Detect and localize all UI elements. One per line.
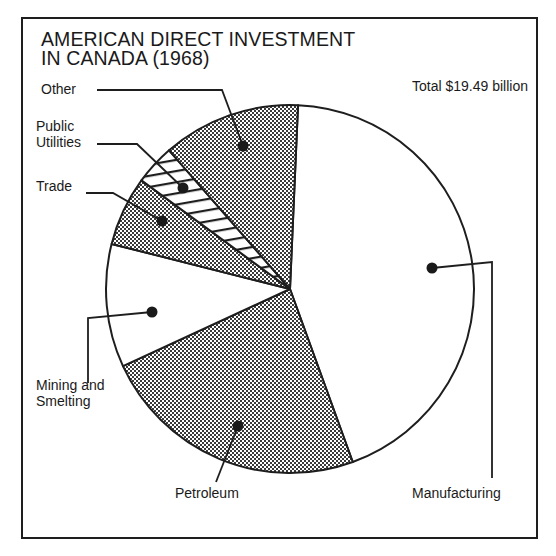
label-manufacturing: Manufacturing xyxy=(412,485,501,501)
label-mining-line-2: Smelting xyxy=(36,393,105,409)
label-public-utilities-line-1: Public xyxy=(36,118,81,134)
dot-mining xyxy=(147,307,158,318)
pie-chart xyxy=(0,0,556,556)
label-petroleum: Petroleum xyxy=(175,485,239,501)
label-other: Other xyxy=(41,81,76,97)
dot-other xyxy=(238,141,249,152)
dot-manufacturing xyxy=(427,263,438,274)
label-mining-line-1: Mining and xyxy=(36,377,105,393)
label-public-utilities: Public Utilities xyxy=(36,118,81,150)
dot-petroleum xyxy=(233,421,244,432)
dot-trade xyxy=(157,216,168,227)
label-mining-and-smelting: Mining and Smelting xyxy=(36,377,105,409)
label-public-utilities-line-2: Utilities xyxy=(36,134,81,150)
label-trade: Trade xyxy=(36,178,72,194)
dot-public-utilities xyxy=(178,183,189,194)
